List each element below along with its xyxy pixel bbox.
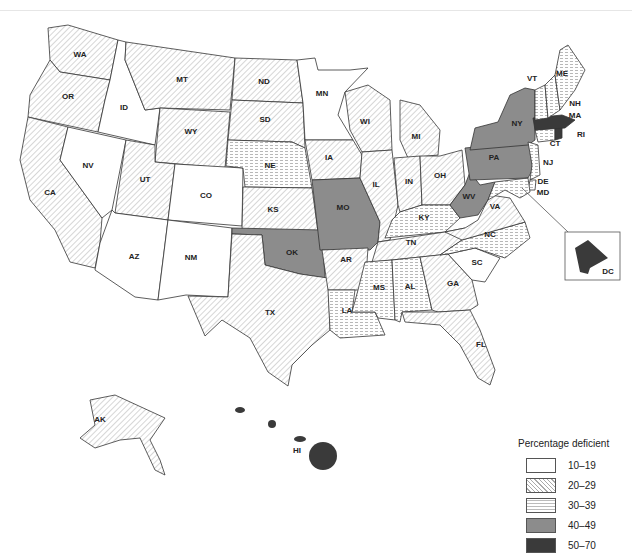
label-WY: WY <box>185 127 199 136</box>
label-TX: TX <box>265 308 276 317</box>
legend-item: 20–29 <box>518 475 628 495</box>
label-PA: PA <box>489 153 500 162</box>
legend-title: Percentage deficient <box>518 438 628 449</box>
label-AK: AK <box>94 415 106 424</box>
label-IN: IN <box>405 177 413 186</box>
label-AL: AL <box>405 282 416 291</box>
label-IL: IL <box>372 180 379 189</box>
legend-item: 40–49 <box>518 515 628 535</box>
legend-item: 50–70 <box>518 535 628 555</box>
legend-swatch <box>526 458 556 473</box>
label-MI: MI <box>412 132 421 141</box>
state-KS <box>242 187 318 232</box>
state-WY <box>155 108 230 168</box>
label-ND: ND <box>258 77 270 86</box>
label-DE: DE <box>537 177 549 186</box>
label-NJ: NJ <box>543 158 553 167</box>
label-SD: SD <box>259 115 270 124</box>
label-RI: RI <box>577 130 585 139</box>
label-KY: KY <box>418 213 430 222</box>
state-HI <box>235 407 337 470</box>
legend-label: 30–39 <box>568 500 596 511</box>
label-AR: AR <box>340 255 352 264</box>
label-UT: UT <box>140 175 151 184</box>
legend-swatch <box>526 538 556 553</box>
label-TN: TN <box>406 238 417 247</box>
legend-swatch <box>526 478 556 493</box>
legend-label: 40–49 <box>568 520 596 531</box>
label-AZ: AZ <box>129 252 140 261</box>
label-ME: ME <box>556 69 569 78</box>
label-VT: VT <box>527 74 537 83</box>
label-WA: WA <box>74 50 87 59</box>
label-CA: CA <box>44 188 56 197</box>
label-FL: FL <box>476 340 486 349</box>
state-AK <box>80 395 165 475</box>
label-SC: SC <box>471 258 482 267</box>
legend-label: 10–19 <box>568 460 596 471</box>
label-NC: NC <box>484 230 496 239</box>
legend-label: 50–70 <box>568 540 596 551</box>
label-WV: WV <box>463 192 477 201</box>
map-legend: Percentage deficient 10–19 20–29 30–39 4… <box>518 438 628 555</box>
label-NY: NY <box>511 119 523 128</box>
label-IA: IA <box>325 153 333 162</box>
label-HI: HI <box>293 446 301 455</box>
label-MS: MS <box>373 283 386 292</box>
label-DC: DC <box>602 267 614 276</box>
label-WI: WI <box>360 117 370 126</box>
label-GA: GA <box>447 279 459 288</box>
label-CO: CO <box>200 191 212 200</box>
legend-item: 30–39 <box>518 495 628 515</box>
state-MI <box>400 100 440 158</box>
legend-label: 20–29 <box>568 480 596 491</box>
label-MT: MT <box>176 75 188 84</box>
label-OH: OH <box>434 171 446 180</box>
state-IA <box>305 140 362 180</box>
label-NE: NE <box>264 161 276 170</box>
label-MD: MD <box>537 188 550 197</box>
legend-item: 10–19 <box>518 455 628 475</box>
label-CT: CT <box>550 139 561 148</box>
label-MO: MO <box>337 203 350 212</box>
label-OR: OR <box>62 92 74 101</box>
label-NM: NM <box>185 253 198 262</box>
state-NY <box>470 88 535 150</box>
label-OK: OK <box>286 248 298 257</box>
label-KS: KS <box>267 205 279 214</box>
label-ID: ID <box>120 103 128 112</box>
state-MD <box>488 178 530 200</box>
legend-swatch <box>526 498 556 513</box>
label-VA: VA <box>490 202 501 211</box>
label-NH: NH <box>569 99 581 108</box>
label-MA: MA <box>569 111 582 120</box>
legend-swatch <box>526 518 556 533</box>
label-LA: LA <box>342 306 353 315</box>
label-NV: NV <box>82 161 94 170</box>
label-MN: MN <box>316 89 329 98</box>
